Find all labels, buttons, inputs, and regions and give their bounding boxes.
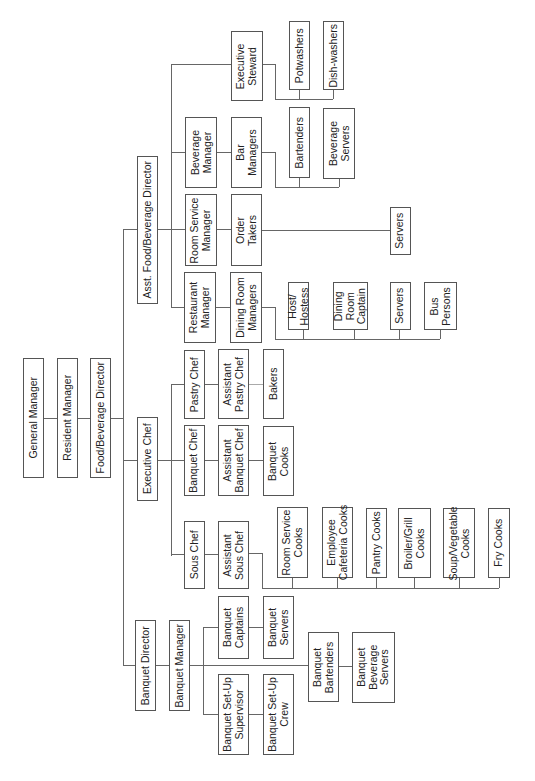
node-label: Executive Steward [236, 43, 259, 89]
node-rs-servers: Servers [390, 207, 411, 255]
node-label: Assistant Pastry Chef [222, 357, 245, 412]
connector [440, 329, 441, 339]
node-banquet-chef: Banquet Chef [184, 425, 205, 496]
connector [123, 229, 137, 230]
connector [204, 554, 218, 555]
connector [157, 229, 171, 230]
node-label: Resident Manager [62, 375, 74, 461]
node-beverage-manager: Beverage Manager [185, 117, 217, 188]
connector [248, 384, 263, 385]
node-banquet-captains: Banquet Captains [218, 596, 249, 659]
connector [261, 152, 275, 153]
connector [204, 460, 218, 461]
node-label: Broiler/Grill Cooks [403, 517, 426, 569]
connector [171, 64, 231, 65]
node-dr-servers: Servers [390, 282, 411, 330]
node-label: Banquet Captains [222, 607, 245, 648]
node-asst-pastry-chef: Assistant Pastry Chef [218, 349, 249, 419]
node-label: Banquet Set-Up Crew [267, 677, 290, 752]
connector [299, 177, 300, 187]
node-host-hostess: Host/ Hostess [288, 282, 309, 330]
node-label: Host/ Hostess [287, 287, 310, 325]
node-dining-room-captain: Dining Room Captain [333, 282, 368, 330]
connector [203, 627, 218, 628]
node-label: Assistant Sous Chef [222, 530, 245, 579]
node-banquet-manager: Banquet Manager [169, 620, 190, 711]
node-label: Banquet Cooks [267, 441, 290, 480]
connector [414, 577, 415, 588]
connector [248, 460, 263, 461]
connector [171, 307, 185, 308]
node-dishwashers: Dish-washers [323, 21, 344, 90]
connector [43, 418, 57, 419]
node-label: Dining Room Managers [235, 277, 258, 338]
connector [204, 384, 218, 385]
connector [203, 714, 218, 715]
node-bakers: Bakers [263, 349, 284, 419]
node-soup-vegetable-cooks: Soup/Vegetable Cooks [443, 508, 475, 578]
node-asst-fb-director: Asst. Food/Beverage Director [137, 156, 158, 304]
node-restaurant-manager: Restaurant Manager [184, 272, 216, 343]
connector [215, 307, 230, 308]
node-banquet-bartenders: Banquet Bartenders [308, 632, 339, 702]
node-dining-room-managers: Dining Room Managers [230, 272, 262, 343]
org-chart: General Manager Resident Manager Food/Be… [0, 0, 535, 781]
node-label: Bar Managers [235, 129, 258, 176]
node-label: Assistant Banquet Chef [222, 428, 245, 492]
node-label: General Manager [28, 377, 40, 459]
connector [261, 307, 275, 308]
connector [333, 89, 334, 99]
node-asst-banquet-chef: Assistant Banquet Chef [218, 425, 249, 496]
node-bar-managers: Bar Managers [231, 117, 262, 188]
node-label: Pantry Cooks [371, 511, 383, 574]
node-label: Servers [395, 213, 407, 249]
node-label: Sous Chef [189, 530, 201, 579]
connector [216, 152, 231, 153]
node-banquet-setup-supervisor: Banquet Set-Up Supervisor [218, 674, 249, 755]
node-banquet-cooks: Banquet Cooks [263, 426, 294, 496]
connector [275, 99, 333, 100]
connector [171, 152, 185, 153]
node-label: Beverage Manager [190, 130, 213, 175]
connector [339, 178, 340, 187]
connector [123, 665, 135, 666]
node-label: Dish-washers [328, 24, 340, 88]
connector [203, 627, 204, 714]
node-label: Banquet Manager [174, 624, 186, 707]
node-label: Potwashers [294, 28, 306, 83]
connector [171, 384, 172, 556]
connector [275, 64, 276, 99]
connector [275, 187, 339, 188]
node-bartenders: Bartenders [289, 107, 310, 178]
node-label: Asst. Food/Beverage Director [142, 161, 154, 299]
connector [171, 554, 184, 555]
node-resident-manager: Resident Manager [57, 358, 78, 478]
connector [499, 577, 500, 588]
node-label: Food/Beverage Director [95, 362, 107, 473]
node-label: Pastry Chef [189, 357, 201, 412]
connector [376, 577, 377, 588]
connector [303, 329, 304, 339]
connector [275, 339, 440, 340]
node-label: Bakers [268, 368, 280, 401]
node-executive-steward: Executive Steward [231, 31, 263, 101]
node-fb-director: Food/Beverage Director [90, 358, 111, 478]
connector [155, 665, 169, 666]
node-label: Servers [395, 288, 407, 324]
node-employee-cafeteria-cooks: Employee Cafeteria Cooks [322, 507, 353, 578]
connector [262, 588, 499, 589]
connector [248, 714, 263, 715]
connector [123, 460, 137, 461]
node-label: Fry Cooks [493, 519, 505, 567]
connector [262, 64, 275, 65]
node-label: Room Service Manager [190, 197, 213, 263]
node-beverage-servers: Beverage Servers [323, 108, 355, 179]
node-bus-persons: Bus Persons [424, 282, 457, 330]
node-label: Banquet Bartenders [312, 641, 335, 692]
node-banquet-servers: Banquet Servers [263, 596, 294, 659]
node-label: Restaurant Manager [189, 282, 212, 333]
connector [275, 307, 276, 339]
connector [299, 89, 300, 99]
node-label: Executive Chef [142, 424, 154, 495]
node-banquet-setup-crew: Banquet Set-Up Crew [263, 674, 294, 755]
